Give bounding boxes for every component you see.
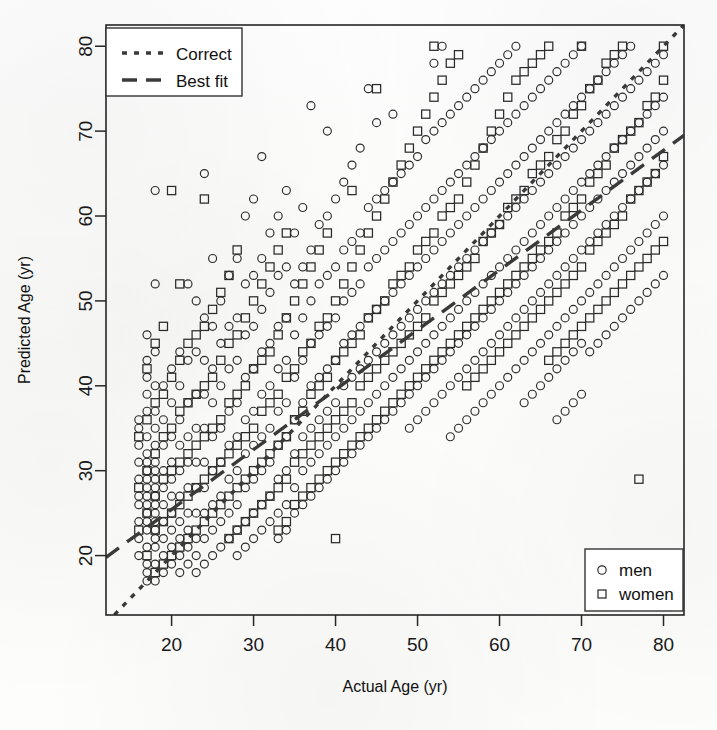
point-women xyxy=(536,246,544,254)
point-men xyxy=(291,484,299,492)
point-men xyxy=(578,390,586,398)
point-men xyxy=(414,416,422,424)
point-men xyxy=(168,365,176,373)
point-women xyxy=(151,450,159,458)
point-men xyxy=(528,93,536,101)
point-men xyxy=(479,237,487,245)
legend-markers[interactable]: men women xyxy=(585,549,683,611)
point-men xyxy=(619,204,627,212)
point-men xyxy=(348,288,356,296)
point-men xyxy=(143,543,151,551)
point-men xyxy=(315,416,323,424)
point-women xyxy=(167,186,175,194)
point-men xyxy=(282,526,290,534)
point-men xyxy=(315,450,323,458)
point-men xyxy=(430,195,438,203)
point-men xyxy=(176,441,184,449)
point-women xyxy=(356,382,364,390)
point-women xyxy=(422,365,430,373)
point-men xyxy=(381,297,389,305)
point-women xyxy=(536,161,544,169)
point-men xyxy=(619,254,627,262)
point-women xyxy=(331,535,339,543)
point-men xyxy=(348,237,356,245)
point-women xyxy=(323,314,331,322)
point-women xyxy=(635,263,643,271)
point-women xyxy=(315,475,323,483)
point-men xyxy=(356,144,364,152)
point-men xyxy=(496,178,504,186)
point-men xyxy=(307,339,315,347)
point-men xyxy=(389,178,397,186)
point-men xyxy=(373,119,381,127)
point-men xyxy=(651,221,659,229)
point-women xyxy=(340,348,348,356)
point-men xyxy=(332,314,340,322)
point-men xyxy=(159,569,167,577)
point-women xyxy=(430,297,438,305)
point-men xyxy=(438,356,446,364)
point-men xyxy=(217,518,225,526)
legend-bestfit-label: Best fit xyxy=(176,72,228,91)
point-men xyxy=(487,229,495,237)
point-men xyxy=(438,237,446,245)
point-men xyxy=(504,373,512,381)
point-men xyxy=(578,93,586,101)
point-women xyxy=(586,246,594,254)
point-women xyxy=(299,492,307,500)
point-men xyxy=(340,246,348,254)
point-women xyxy=(159,475,167,483)
point-men xyxy=(200,560,208,568)
point-men xyxy=(151,492,159,500)
point-men xyxy=(209,254,217,262)
point-men xyxy=(455,339,463,347)
point-men xyxy=(192,552,200,560)
point-men xyxy=(446,433,454,441)
point-women xyxy=(307,263,315,271)
point-men xyxy=(241,518,249,526)
point-men xyxy=(135,458,143,466)
point-women xyxy=(315,433,323,441)
x-tick-label: 60 xyxy=(489,634,510,655)
point-women xyxy=(192,331,200,339)
point-men xyxy=(553,322,561,330)
point-women xyxy=(348,339,356,347)
point-men xyxy=(184,433,192,441)
point-women xyxy=(463,263,471,271)
point-men xyxy=(151,424,159,432)
point-men xyxy=(602,331,610,339)
point-women xyxy=(405,382,413,390)
point-women xyxy=(176,407,184,415)
point-women xyxy=(282,475,290,483)
point-women xyxy=(586,314,594,322)
point-men xyxy=(151,543,159,551)
point-men xyxy=(430,59,438,67)
point-men xyxy=(151,458,159,466)
point-men xyxy=(184,399,192,407)
point-men xyxy=(340,339,348,347)
point-women xyxy=(438,288,446,296)
point-men xyxy=(332,263,340,271)
point-men xyxy=(561,314,569,322)
point-women xyxy=(438,76,446,84)
point-men xyxy=(586,127,594,135)
point-men xyxy=(569,144,577,152)
point-women xyxy=(348,263,356,271)
point-men xyxy=(569,348,577,356)
legend-line-styles[interactable]: Correct Best fit xyxy=(106,28,242,96)
point-women xyxy=(315,382,323,390)
point-men xyxy=(225,509,233,517)
point-men xyxy=(143,331,151,339)
point-women xyxy=(249,424,257,432)
point-women xyxy=(241,433,249,441)
point-men xyxy=(364,433,372,441)
point-men xyxy=(184,526,192,534)
point-women xyxy=(323,467,331,475)
point-men xyxy=(233,399,241,407)
point-men xyxy=(266,492,274,500)
point-men xyxy=(291,229,299,237)
point-men xyxy=(307,297,315,305)
point-men xyxy=(315,221,323,229)
point-women xyxy=(405,144,413,152)
point-men xyxy=(553,68,561,76)
